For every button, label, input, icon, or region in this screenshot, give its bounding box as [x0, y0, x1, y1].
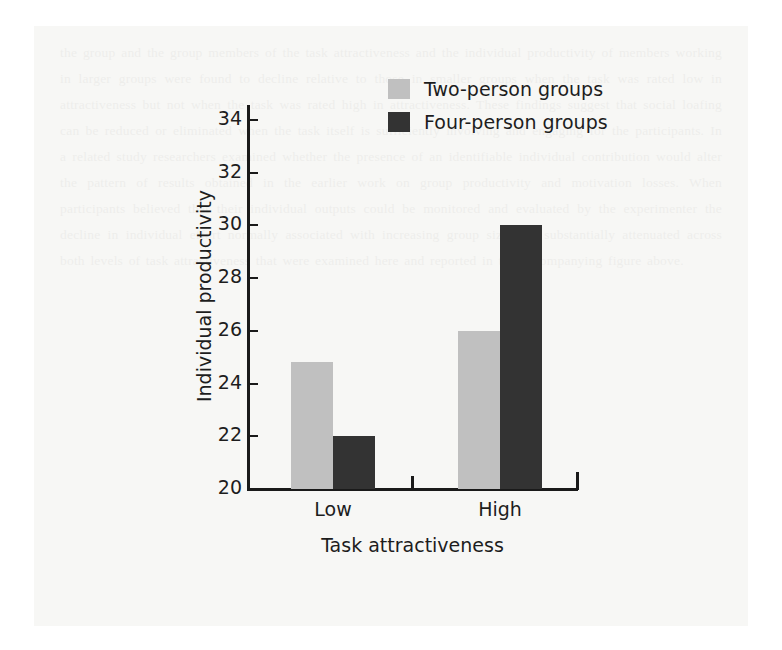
chart-legend: Two-person groupsFour-person groups [388, 72, 608, 138]
legend-item: Two-person groups [388, 72, 608, 105]
scanned-page: the group and the group members of the t… [0, 0, 782, 650]
legend-label: Two-person groups [424, 78, 603, 100]
bar [500, 225, 542, 489]
y-axis-title: Individual productivity [193, 96, 215, 496]
legend-label: Four-person groups [424, 111, 608, 133]
bar [291, 362, 333, 489]
legend-item: Four-person groups [388, 105, 608, 138]
legend-swatch-icon [388, 112, 410, 132]
x-category-label: Low [273, 498, 393, 520]
x-axis-title: Task attractiveness [247, 534, 578, 556]
legend-swatch-icon [388, 79, 410, 99]
bar [458, 331, 500, 489]
x-category-label: High [440, 498, 560, 520]
bar-chart: 2022242628303234 LowHigh Task attractive… [0, 0, 782, 650]
bar [333, 436, 375, 489]
